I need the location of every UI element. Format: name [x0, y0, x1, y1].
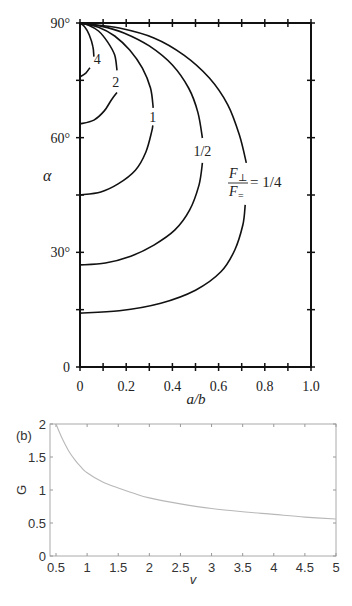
top-y-axis-label: α [43, 167, 52, 184]
bottom-chart-curve [56, 424, 336, 519]
x-tick-label: 0.4 [164, 379, 182, 394]
bottom-plot-frame [50, 424, 336, 556]
curve-label: 2 [112, 75, 119, 90]
curve-1-over-2 [80, 23, 202, 138]
x-tick-label: 3 [208, 560, 215, 575]
svg-text:= 1/4: = 1/4 [250, 174, 282, 190]
y-tick-label: 0 [39, 549, 46, 564]
x-tick-label: 1.5 [109, 560, 127, 575]
x-tick-label: 0 [77, 379, 84, 394]
x-tick-label: 1.0 [302, 379, 320, 394]
curve-label: 4 [94, 52, 101, 67]
top-chart-axes: 00.20.40.60.81.0030°60°90° [50, 16, 319, 394]
x-tick-label: 0.6 [210, 379, 228, 394]
panel-label-b: (b) [16, 428, 32, 443]
curve-1 [80, 125, 153, 195]
y-tick-label: 30° [50, 245, 70, 260]
bottom-x-axis-label: v [190, 572, 198, 587]
y-tick-label: 1.5 [28, 450, 46, 465]
curve-1-over-4 [80, 205, 245, 313]
x-tick-label: 4 [270, 560, 277, 575]
y-tick-label: 0.5 [28, 516, 46, 531]
figure: 00.20.40.60.81.0030°60°90° 4211/2 α a/b … [0, 0, 352, 606]
curve-1-over-4 [80, 23, 246, 163]
svg-text:⊥: ⊥ [238, 172, 247, 183]
svg-text:F: F [228, 184, 238, 199]
x-tick-label: 0.2 [117, 379, 135, 394]
top-chart-curves [80, 23, 246, 313]
x-tick-label: 2 [146, 560, 153, 575]
bottom-chart-axes: 0.511.522.533.544.5500.511.52 [28, 417, 340, 575]
top-chart: 00.20.40.60.81.0030°60°90° 4211/2 α a/b … [43, 16, 320, 407]
bottom-chart: 0.511.522.533.544.5500.511.52 (b) G v [14, 417, 340, 587]
g-curve [56, 424, 336, 519]
x-tick-label: 3.5 [234, 560, 252, 575]
x-tick-label: 2.5 [171, 560, 189, 575]
curve-4 [80, 23, 94, 57]
svg-text:F: F [228, 166, 238, 181]
y-tick-label: 90° [50, 16, 70, 31]
y-tick-label: 60° [50, 131, 70, 146]
curve-2 [80, 93, 117, 124]
svg-text:=: = [238, 190, 244, 201]
top-x-axis-label: a/b [186, 391, 206, 407]
curve-label: 1/2 [193, 144, 211, 159]
x-tick-label: 5 [332, 560, 339, 575]
y-tick-label: 1 [39, 483, 46, 498]
y-tick-label: 0 [63, 360, 70, 375]
x-tick-label: 0.5 [47, 560, 65, 575]
y-tick-label: 2 [39, 417, 46, 432]
x-tick-label: 0.8 [256, 379, 274, 394]
curve-4 [80, 68, 90, 77]
ratio-annotation: F ⊥ F = = 1/4 [228, 166, 282, 201]
curve-1-over-2 [80, 163, 202, 265]
bottom-y-axis-label: G [14, 485, 29, 495]
x-tick-label: 1 [83, 560, 90, 575]
curve-label: 1 [149, 110, 156, 125]
x-tick-label: 4.5 [296, 560, 314, 575]
